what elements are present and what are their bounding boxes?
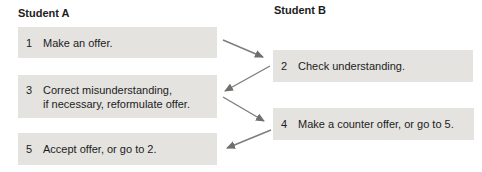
step-row: 2 Check understanding.	[273, 59, 473, 73]
arrow-2-to-3	[225, 66, 270, 91]
step-box-2: 2 Check understanding.	[273, 50, 473, 82]
step-1-number: 1	[26, 36, 43, 50]
step-5-line-1: Accept offer, or go to 2.	[43, 142, 217, 156]
step-4-line-1: Make a counter offer, or go to 5.	[298, 117, 474, 131]
arrow-1-to-2	[223, 40, 263, 57]
column-label-student-a: Student A	[18, 7, 70, 19]
step-row: 1 Make an offer.	[18, 36, 217, 50]
step-3-number: 3	[26, 83, 43, 97]
step-row: 5 Accept offer, or go to 2.	[18, 142, 217, 156]
step-3-line-2: if necessary, reformulate offer.	[43, 97, 217, 111]
step-1-text: Make an offer.	[43, 36, 217, 50]
column-label-student-b: Student B	[274, 4, 326, 16]
step-2-number: 2	[281, 59, 298, 73]
step-box-4: 4 Make a counter offer, or go to 5.	[273, 108, 474, 140]
negotiation-flow-diagram: Student A Student B 1 Make an offer. 2 C…	[0, 0, 482, 172]
step-row: 3 Correct misunderstanding, if necessary…	[18, 83, 217, 111]
step-3-text: Correct misunderstanding, if necessary, …	[43, 83, 217, 111]
step-box-3: 3 Correct misunderstanding, if necessary…	[18, 75, 217, 118]
step-5-text: Accept offer, or go to 2.	[43, 142, 217, 156]
arrow-4-to-5	[227, 130, 271, 148]
step-box-5: 5 Accept offer, or go to 2.	[18, 133, 217, 165]
step-4-text: Make a counter offer, or go to 5.	[298, 117, 474, 131]
step-2-text: Check understanding.	[298, 59, 473, 73]
step-box-1: 1 Make an offer.	[18, 27, 217, 58]
step-4-number: 4	[281, 117, 298, 131]
step-1-line-1: Make an offer.	[43, 36, 217, 50]
step-row: 4 Make a counter offer, or go to 5.	[273, 117, 474, 131]
step-2-line-1: Check understanding.	[298, 59, 473, 73]
arrow-3-to-4	[223, 97, 264, 121]
step-5-number: 5	[26, 142, 43, 156]
step-3-line-1: Correct misunderstanding,	[43, 83, 217, 97]
